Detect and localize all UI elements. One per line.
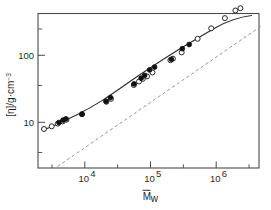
data-point-open	[42, 127, 47, 132]
data-point-filled	[152, 65, 157, 70]
y-axis-title: [η]/g·cm−3	[5, 73, 16, 117]
x-tick-label-1e4: 10 4	[79, 168, 96, 184]
x-axis-ticks	[52, 162, 249, 169]
data-point-filled	[147, 68, 152, 73]
figure-container: 100 10 10 4 10 5 10 6 M w [η]/g·cm−3	[0, 0, 271, 210]
x-tick-label-1e6: 10 6	[210, 168, 227, 184]
x-tick-label-1e5-mantissa: 10	[144, 173, 155, 184]
data-point-filled	[180, 46, 185, 51]
data-point-open	[233, 8, 238, 13]
y-axis-title-units: /g·cm	[5, 81, 16, 106]
y-axis-title-exponent: −3	[5, 73, 12, 81]
asymptote-dashed-line	[58, 26, 263, 167]
data-point-open	[238, 6, 243, 11]
data-point-open	[222, 16, 227, 21]
data-point-filled	[169, 57, 174, 62]
data-point-open	[209, 26, 214, 31]
x-tick-label-1e4-exponent: 4	[90, 168, 95, 179]
y-axis-ticks	[38, 29, 45, 153]
x-axis-title: M w	[143, 190, 159, 204]
data-point-filled	[132, 82, 137, 87]
x-axis-title-subscript: w	[150, 193, 159, 204]
x-tick-label-1e6-mantissa: 10	[210, 173, 221, 184]
data-point-filled	[80, 112, 85, 117]
y-tick-label-10: 10	[23, 117, 34, 128]
chart-canvas: 100 10 10 4 10 5 10 6 M w [η]/g·cm−3	[0, 0, 271, 210]
x-tick-label-1e6-exponent: 6	[222, 168, 227, 179]
x-tick-label-1e4-mantissa: 10	[79, 173, 90, 184]
data-point-filled	[104, 99, 109, 104]
fit-curve-solid	[43, 16, 252, 130]
series-open-circles	[42, 6, 243, 132]
data-point-open	[195, 36, 200, 41]
y-axis-title-main: [η]/g·cm−3	[5, 73, 16, 117]
x-tick-label-1e5-exponent: 5	[156, 168, 161, 179]
data-point-filled	[108, 95, 113, 100]
data-point-filled	[187, 42, 192, 47]
data-point-open	[49, 124, 54, 129]
plot-frame	[38, 14, 259, 169]
data-point-filled	[64, 117, 69, 122]
y-tick-label-100: 100	[18, 50, 34, 61]
data-point-filled	[142, 73, 147, 78]
x-tick-label-1e5: 10 5	[144, 168, 161, 184]
